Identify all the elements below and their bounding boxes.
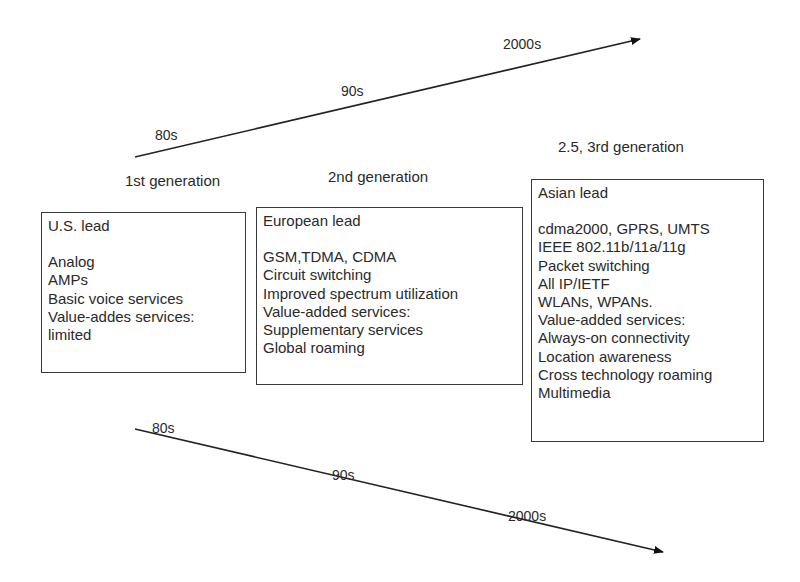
lead-label: U.S. lead — [48, 217, 240, 235]
feature-item: Analog — [48, 253, 240, 271]
feature-item: Value-added services: — [538, 311, 758, 329]
bottom-timeline-label-80s: 80s — [152, 420, 175, 436]
feature-item: Improved spectrum utilization — [263, 285, 517, 303]
feature-item: IEEE 802.11b/11a/11g — [538, 238, 758, 256]
generation-box-1st: U.S. lead Analog AMPs Basic voice servic… — [41, 212, 246, 373]
generation-box-3rd: Asian lead cdma2000, GPRS, UMTS IEEE 802… — [531, 179, 764, 442]
feature-item: AMPs — [48, 271, 240, 289]
feature-item: limited — [48, 326, 240, 344]
feature-item: Value-addes services: — [48, 308, 240, 326]
spacer — [538, 202, 758, 220]
generation-title-2nd: 2nd generation — [328, 168, 428, 186]
feature-item: Basic voice services — [48, 290, 240, 308]
lead-label: Asian lead — [538, 184, 758, 202]
lead-label: European lead — [263, 212, 517, 230]
feature-item: Multimedia — [538, 384, 758, 402]
feature-item: WLANs, WPANs. — [538, 293, 758, 311]
feature-item: Value-added services: — [263, 303, 517, 321]
feature-item: Cross technology roaming — [538, 366, 758, 384]
feature-item: All IP/IETF — [538, 275, 758, 293]
feature-item: cdma2000, GPRS, UMTS — [538, 220, 758, 238]
top-timeline-label-90s: 90s — [341, 83, 364, 99]
spacer — [263, 230, 517, 248]
bottom-timeline-label-2000s: 2000s — [508, 508, 546, 524]
feature-item: Always-on connectivity — [538, 329, 758, 347]
feature-item: Location awareness — [538, 348, 758, 366]
bottom-timeline-arrow — [135, 429, 663, 552]
top-timeline-label-2000s: 2000s — [503, 36, 541, 52]
generation-title-1st: 1st generation — [125, 172, 220, 190]
feature-item: Packet switching — [538, 257, 758, 275]
feature-item: Supplementary services — [263, 321, 517, 339]
spacer — [48, 235, 240, 253]
feature-item: GSM,TDMA, CDMA — [263, 248, 517, 266]
feature-item: Circuit switching — [263, 266, 517, 284]
bottom-timeline-label-90s: 90s — [332, 467, 355, 483]
generation-box-2nd: European lead GSM,TDMA, CDMA Circuit swi… — [256, 207, 523, 385]
generation-title-3rd: 2.5, 3rd generation — [558, 138, 684, 156]
top-timeline-label-80s: 80s — [155, 127, 178, 143]
feature-item: Global roaming — [263, 339, 517, 357]
